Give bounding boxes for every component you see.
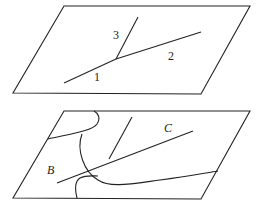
label-1: 1 xyxy=(94,70,100,84)
label-c: C xyxy=(164,121,173,135)
fault-line-branch xyxy=(109,117,132,159)
boundary-lower xyxy=(75,176,98,198)
bottom-panel: B C xyxy=(13,111,250,199)
segment-2 xyxy=(116,32,201,59)
boundary-center xyxy=(80,134,218,185)
top-panel: 3 2 1 xyxy=(13,6,250,94)
segment-1 xyxy=(64,59,116,83)
label-b: B xyxy=(47,163,55,177)
fault-line-main xyxy=(57,131,193,183)
diagram: 3 2 1 B C xyxy=(0,0,258,212)
label-3: 3 xyxy=(113,28,119,42)
top-plane-outline xyxy=(13,6,250,94)
label-2: 2 xyxy=(168,49,174,63)
